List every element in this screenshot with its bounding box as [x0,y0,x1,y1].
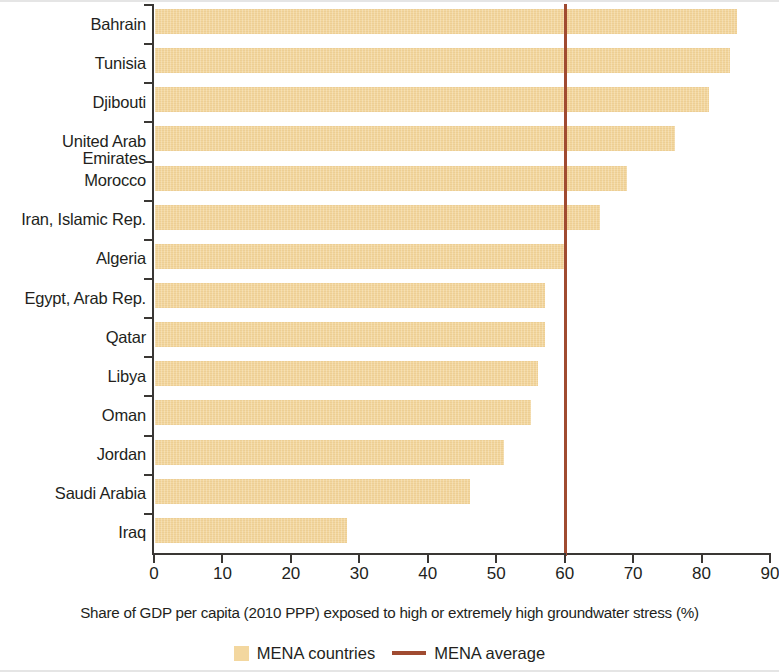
bar[interactable] [155,518,347,543]
y-axis-tick [144,43,153,45]
bar[interactable] [155,440,504,465]
bar[interactable] [155,479,470,504]
y-axis-label: Jordan [0,446,146,463]
legend-label-mena-countries: MENA countries [257,645,375,662]
legend-swatch-box-icon [234,646,249,661]
x-axis-tick [701,553,703,563]
legend-item-mena-countries: MENA countries [234,645,375,662]
x-axis-tick-label: 20 [281,565,300,582]
y-axis-tick [144,161,153,163]
x-axis-tick [153,553,155,563]
bar[interactable] [155,283,545,308]
x-axis-tick [358,553,360,563]
y-axis-tick [144,200,153,202]
y-axis-tick [144,82,153,84]
plot-area [153,4,769,552]
x-axis-tick [427,553,429,563]
x-axis-tick [564,553,566,563]
legend-label-mena-average: MENA average [434,645,545,662]
bar-row [153,82,769,121]
bar[interactable] [155,361,538,386]
y-axis-label: Bahrain [0,16,146,33]
y-axis-tick [144,121,153,123]
legend-item-mena-average: MENA average [392,645,545,662]
bar-row [153,435,769,474]
bar[interactable] [155,48,730,73]
bar[interactable] [155,205,600,230]
x-axis-tick-label: 60 [555,565,574,582]
x-axis-line [152,553,770,555]
y-axis-tick [144,395,153,397]
chart-legend: MENA countries MENA average [0,645,779,662]
bar[interactable] [155,400,531,425]
bar-row [153,43,769,82]
y-axis-tick [144,239,153,241]
x-axis-tick-label: 90 [761,565,779,582]
bar-row [153,474,769,513]
bar[interactable] [155,322,545,347]
bar-row [153,317,769,356]
y-axis-label: Oman [0,407,146,424]
legend-swatch-line-icon [392,651,426,655]
x-axis-tick-label: 40 [418,565,437,582]
y-axis-label: Iran, Islamic Rep. [0,211,146,228]
x-axis-tick-label: 10 [213,565,232,582]
bar-row [153,395,769,434]
x-axis-tick [632,553,634,563]
bar-row [153,200,769,239]
y-axis-label: Djibouti [0,94,146,111]
bar[interactable] [155,244,566,269]
x-axis-tick [221,553,223,563]
y-axis-label: Libya [0,368,146,385]
x-axis-tick [495,553,497,563]
y-axis-tick [144,356,153,358]
x-axis-tick [769,553,771,563]
x-axis-tick-label: 30 [350,565,369,582]
bar[interactable] [155,9,737,34]
y-axis-label: Tunisia [0,55,146,72]
bar-row [153,356,769,395]
x-axis-tick-label: 80 [692,565,711,582]
bar[interactable] [155,166,627,191]
y-axis-label: United Arab Emirates [0,133,146,166]
x-axis-tick-label: 0 [149,565,158,582]
x-axis-title: Share of GDP per capita (2010 PPP) expos… [0,604,779,621]
y-axis-label: Saudi Arabia [0,485,146,502]
y-axis-category-labels: BahrainTunisiaDjiboutiUnited Arab Emirat… [0,4,146,552]
x-axis-tick-label: 50 [487,565,506,582]
x-axis-tick [290,553,292,563]
x-axis-tick-label: 70 [624,565,643,582]
bar[interactable] [155,87,709,112]
bar-row [153,278,769,317]
y-axis-tick [144,317,153,319]
bar-row [153,121,769,160]
y-axis-tick [144,278,153,280]
y-axis-tick [144,513,153,515]
bar[interactable] [155,126,675,151]
y-axis-tick [144,435,153,437]
y-axis-tick [144,4,153,6]
page-edge-top [0,0,779,2]
bar-row [153,161,769,200]
y-axis-label: Egypt, Arab Rep. [0,290,146,307]
y-axis-label: Morocco [0,172,146,189]
mena-average-reference-line [564,4,567,556]
bar-row [153,239,769,278]
y-axis-label: Iraq [0,524,146,541]
y-axis-label: Qatar [0,329,146,346]
y-axis-tick [144,474,153,476]
y-axis-label: Algeria [0,250,146,267]
bar-row [153,513,769,552]
groundwater-stress-bar-chart: BahrainTunisiaDjiboutiUnited Arab Emirat… [0,0,779,672]
bar-row [153,4,769,43]
